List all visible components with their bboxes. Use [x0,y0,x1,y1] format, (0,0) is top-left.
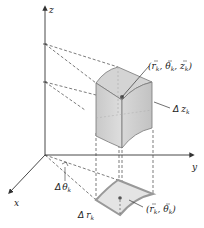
svg-text:(rk, θk): (rk, θk) [146,204,176,215]
volume-element [96,67,152,148]
point-3d-label: (rk, θk, zk) [148,61,192,72]
point-2d-label: (rk, θk) [146,204,176,215]
delta-r-label: Δrk [77,210,94,221]
x-axis [10,155,45,192]
base-region [96,180,153,215]
y-axis-label: y [191,162,198,172]
delta-z-label: Δzk [172,104,190,115]
svg-text:(rk, θk, zk): (rk, θk, zk) [148,61,192,72]
delta-theta-label: Δθk [54,182,72,193]
cylindrical-wedge-diagram: z y x (rk, θk, zk) Δzk Δθk Δrk (rk, θk) [0,0,204,228]
z-axis-label: z [48,5,54,15]
x-axis-label: x [14,198,19,208]
